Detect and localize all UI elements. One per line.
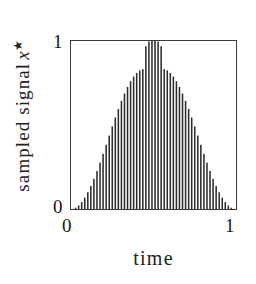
stem-bar bbox=[121, 101, 123, 209]
stem-bar bbox=[130, 81, 132, 209]
stem-bar bbox=[212, 179, 214, 209]
stem-bar bbox=[203, 154, 205, 209]
stem-bar bbox=[154, 41, 156, 209]
stem-bar bbox=[173, 77, 175, 209]
stem-bar bbox=[127, 87, 129, 209]
y-axis-label-text: sampled signal bbox=[12, 63, 33, 192]
y-axis-label-container: sampled signalx★ bbox=[0, 0, 44, 232]
stem-bar bbox=[218, 192, 220, 209]
x-axis-label: time bbox=[70, 247, 237, 270]
stem-bar bbox=[145, 46, 147, 209]
stem-bar bbox=[96, 171, 98, 209]
stem-bar bbox=[124, 94, 126, 209]
stem-bar bbox=[228, 205, 230, 209]
stem-bar bbox=[185, 101, 187, 209]
stem-bar bbox=[166, 70, 168, 209]
stem-bar bbox=[221, 198, 223, 209]
stem-bar bbox=[191, 118, 193, 209]
stem-bar bbox=[215, 186, 217, 209]
stem-series bbox=[71, 41, 236, 209]
stem-bar bbox=[157, 42, 159, 209]
stem-bar bbox=[176, 81, 178, 209]
stem-bar bbox=[75, 208, 77, 209]
stem-bar bbox=[136, 73, 138, 209]
stem-bar bbox=[200, 145, 202, 209]
stem-bar bbox=[78, 205, 80, 209]
stem-bar bbox=[142, 69, 144, 209]
stem-bar bbox=[93, 179, 95, 209]
stem-bar bbox=[151, 41, 153, 209]
figure-root: sampled signalx★ 1 0 0 1 time bbox=[0, 0, 256, 284]
y-axis-label: sampled signalx★ bbox=[12, 40, 32, 191]
stem-bar bbox=[170, 73, 172, 209]
stem-bar bbox=[163, 69, 165, 209]
stem-bar bbox=[84, 198, 86, 209]
stem-bar bbox=[179, 87, 181, 209]
stem-bar bbox=[111, 126, 113, 209]
y-tick-label-0: 0 bbox=[53, 197, 63, 216]
stem-bar bbox=[99, 163, 101, 209]
stem-bar bbox=[133, 77, 135, 209]
plot-area bbox=[70, 40, 237, 210]
y-tick-label-1: 1 bbox=[53, 32, 63, 51]
stem-bar bbox=[225, 202, 227, 209]
stem-bar bbox=[188, 109, 190, 209]
stem-bar bbox=[160, 46, 162, 209]
stem-bar bbox=[108, 136, 110, 209]
stem-bar bbox=[148, 42, 150, 209]
stem-bar bbox=[206, 163, 208, 209]
stem-bar bbox=[90, 186, 92, 209]
stem-bar bbox=[139, 70, 141, 209]
stem-bar bbox=[102, 154, 104, 209]
stem-bar bbox=[118, 109, 120, 209]
stem-bar bbox=[182, 94, 184, 209]
x-tick-label-0: 0 bbox=[62, 216, 72, 235]
stem-bar bbox=[115, 118, 117, 209]
stem-bar bbox=[197, 136, 199, 209]
stem-bar bbox=[87, 192, 89, 209]
stem-bar bbox=[209, 171, 211, 209]
stem-bar bbox=[81, 202, 83, 209]
y-axis-label-symbol: x bbox=[12, 51, 33, 62]
star-icon: ★ bbox=[11, 40, 25, 51]
stem-bar bbox=[231, 208, 233, 209]
stem-bar bbox=[194, 126, 196, 209]
x-tick-label-1: 1 bbox=[225, 216, 235, 235]
stem-bar bbox=[105, 145, 107, 209]
